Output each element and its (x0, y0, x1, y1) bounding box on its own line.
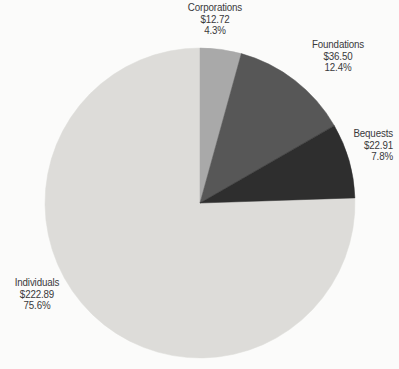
pie-slices (45, 48, 355, 358)
pie-label-bequests: Bequests $22.91 7.8% (296, 128, 393, 163)
pie-label-foundations-name: Foundations (287, 39, 389, 51)
pie-label-foundations: Foundations $36.50 12.4% (287, 39, 389, 74)
pie-label-corporations-name: Corporations (166, 2, 265, 14)
pie-label-bequests-percent: 7.8% (296, 151, 393, 163)
pie-chart-figure: Corporations $12.72 4.3% Foundations $36… (0, 0, 399, 369)
pie-label-foundations-percent: 12.4% (287, 62, 389, 74)
pie-label-individuals: Individuals $222.89 75.6% (3, 277, 72, 312)
pie-label-individuals-name: Individuals (3, 277, 72, 289)
pie-label-individuals-percent: 75.6% (3, 300, 72, 312)
pie-label-corporations-percent: 4.3% (166, 25, 265, 37)
pie-label-corporations: Corporations $12.72 4.3% (166, 2, 265, 37)
pie-label-bequests-name: Bequests (296, 128, 393, 140)
